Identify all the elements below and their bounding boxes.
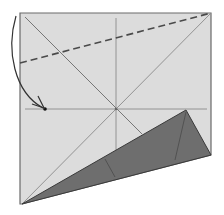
center-point (115, 108, 118, 111)
origami-diagram (0, 0, 224, 215)
